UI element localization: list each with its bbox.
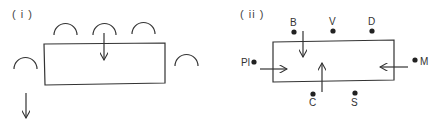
point-V: V [329,16,336,34]
svg-text:B: B [290,17,297,28]
svg-text:D: D [368,16,375,27]
dot-icon [330,28,335,33]
svg-text:S: S [351,97,358,108]
panel-ii-label: ( ii ) [240,8,264,20]
panel-i: ( i ) [12,8,198,118]
arc-top-3 [132,23,155,35]
arc-top-1 [54,24,77,36]
svg-text:C: C [309,97,316,108]
dot-icon [369,28,374,33]
diagram-canvas: ( i ) ( ii ) B V D Pl M [0,0,434,120]
panel-ii-box [273,40,394,82]
point-S: S [351,90,358,108]
panel-i-label: ( i ) [12,8,33,20]
svg-text:Pl: Pl [241,57,250,68]
dot-icon [352,90,357,95]
dot-icon [310,91,315,96]
dot-icon [251,59,256,64]
dot-icon [412,57,417,62]
svg-text:V: V [329,16,336,27]
point-C: C [309,91,316,108]
arc-right [175,55,198,67]
panel-ii: ( ii ) B V D Pl M C S [240,8,428,108]
point-B: B [290,17,297,35]
dot-icon [291,29,296,34]
arc-left [14,58,37,69]
point-M: M [412,56,428,67]
point-D: D [368,16,375,34]
point-Pl: Pl [241,57,257,68]
svg-text:M: M [420,56,428,67]
